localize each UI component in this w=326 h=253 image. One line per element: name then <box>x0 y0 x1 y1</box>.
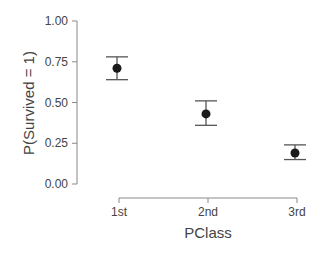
data-series <box>106 57 306 160</box>
x-tick-label: 3rd <box>288 205 305 219</box>
y-tick-label: 0.75 <box>45 55 69 69</box>
y-tick-label: 0.00 <box>45 177 69 191</box>
data-point <box>202 109 211 118</box>
data-point-group <box>106 57 128 80</box>
y-tick-label: 0.50 <box>45 96 69 110</box>
data-point-group <box>284 145 306 160</box>
data-point <box>113 64 122 73</box>
x-tick-label: 2nd <box>198 205 218 219</box>
y-axis: 0.000.250.500.751.00 <box>45 14 77 191</box>
chart: 0.000.250.500.751.00 1st2nd3rd P(Survive… <box>0 0 326 253</box>
x-axis-title: PClass <box>184 224 232 241</box>
y-tick-label: 1.00 <box>45 14 69 28</box>
y-axis-title: P(Survived = 1) <box>20 51 37 155</box>
x-tick-label: 1st <box>111 205 128 219</box>
x-axis: 1st2nd3rd <box>111 198 306 219</box>
data-point-group <box>195 101 217 125</box>
data-point <box>291 149 300 158</box>
y-tick-label: 0.25 <box>45 136 69 150</box>
